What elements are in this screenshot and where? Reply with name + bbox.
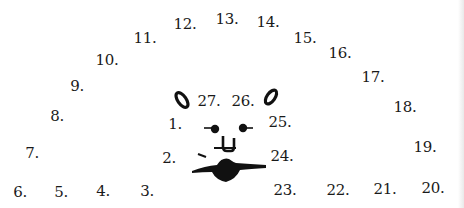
- dot-label-14: 14.: [257, 15, 280, 30]
- dot-label-10: 10.: [96, 53, 119, 68]
- dot-label-20: 20.: [422, 181, 445, 196]
- dot-label-7: 7.: [25, 146, 39, 161]
- nose-icon: [214, 136, 236, 151]
- dot-label-2: 2.: [162, 151, 176, 166]
- connect-the-dots-worksheet: 1. 2. 3. 4. 5. 6. 7. 8. 9. 10. 11. 12. 1…: [0, 0, 464, 208]
- right-eye-icon: [239, 124, 253, 132]
- dot-label-27: 27.: [198, 94, 221, 109]
- dot-label-9: 9.: [70, 79, 84, 94]
- whisker-icon: [198, 154, 206, 157]
- dot-label-24: 24.: [271, 149, 294, 164]
- dot-label-21: 21.: [374, 182, 397, 197]
- dot-label-16: 16.: [329, 46, 352, 61]
- dot-label-4: 4.: [96, 184, 110, 199]
- dot-label-3: 3.: [140, 184, 154, 199]
- dot-label-12: 12.: [174, 17, 197, 32]
- dot-label-22: 22.: [327, 183, 350, 198]
- left-ear-icon: [174, 91, 191, 110]
- dot-label-25: 25.: [269, 115, 292, 130]
- dot-label-23: 23.: [274, 183, 297, 198]
- dot-label-19: 19.: [414, 140, 437, 155]
- right-ear-icon: [263, 88, 279, 106]
- dot-label-8: 8.: [50, 109, 64, 124]
- dot-label-5: 5.: [54, 185, 68, 200]
- dot-label-17: 17.: [362, 70, 385, 85]
- left-eye-icon: [204, 125, 219, 133]
- page-edge-shadow: [458, 0, 464, 208]
- dot-label-15: 15.: [294, 31, 317, 46]
- dot-label-26: 26.: [232, 94, 255, 109]
- dot-label-13: 13.: [216, 12, 239, 27]
- dot-label-18: 18.: [394, 100, 417, 115]
- dot-label-6: 6.: [13, 185, 27, 200]
- dot-label-11: 11.: [134, 31, 157, 46]
- mouth-icon: [192, 159, 266, 182]
- dot-label-1: 1.: [168, 117, 182, 132]
